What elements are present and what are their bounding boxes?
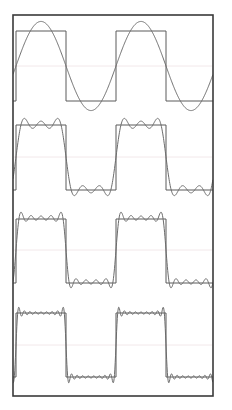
fourier-series-figure: [0, 0, 232, 410]
fourier-plot-svg: [0, 0, 232, 410]
